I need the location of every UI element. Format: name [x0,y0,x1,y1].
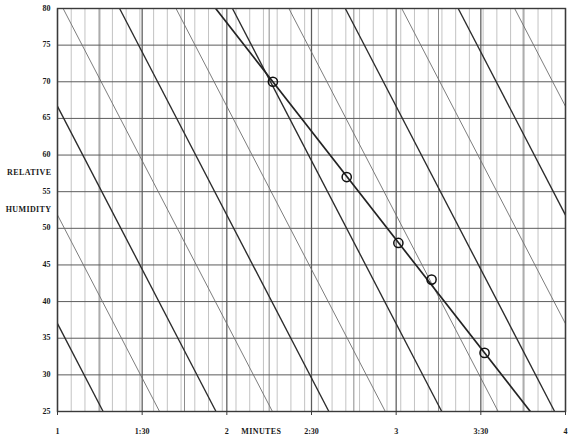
y-axis-tick-label: 70 [43,77,51,86]
y-axis-tick-label: 75 [43,40,51,49]
y-axis-tick-label: 50 [43,223,51,232]
humidity-vs-minutes-chart: 807570656055504540353025 11:3022:3033:30… [0,0,574,444]
x-axis-tick-label: 3:30 [461,427,501,436]
y-axis-tick-label: 40 [43,297,51,306]
x-axis-tick-label: 4 [546,427,574,436]
x-axis-tick-label: 2:30 [292,427,332,436]
y-axis-tick-label: 30 [43,370,51,379]
x-axis-tick-label: 1:30 [122,427,162,436]
y-axis-tick-label: 45 [43,260,51,269]
y-axis-tick-label: 65 [43,113,51,122]
y-axis-tick-label: 80 [43,4,51,13]
y-axis-title-line2: HUMIDITY [6,205,52,214]
y-axis-tick-label: 35 [43,333,51,342]
y-axis-title-line1: RELATIVE [7,168,51,177]
x-axis-tick-label: 3 [376,427,416,436]
y-axis-tick-label: 25 [43,407,51,416]
chart-canvas [0,0,574,444]
x-axis-tick-label: 1 [38,427,78,436]
x-axis-title: MINUTES [241,427,281,436]
y-axis-tick-label: 55 [43,187,51,196]
y-axis-tick-label: 60 [43,150,51,159]
